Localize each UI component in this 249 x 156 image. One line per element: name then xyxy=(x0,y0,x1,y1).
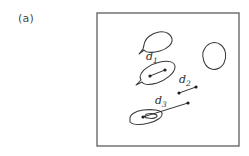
figure-panel: (a) xyxy=(0,0,249,156)
vector-d2-tail-dot xyxy=(177,91,180,94)
vector-d3-label-subscript: 3 xyxy=(162,100,167,109)
vector-d1-label-text: d xyxy=(146,50,153,63)
vector-d2-label-subscript: 2 xyxy=(185,79,191,88)
vector-d3-head-dot xyxy=(186,101,189,104)
figure-scene: d 1 d 2 d 3 xyxy=(0,0,249,156)
vector-d2-label-text: d xyxy=(179,73,186,86)
vector-d3-label-text: d xyxy=(155,94,162,107)
vector-d1-head-dot xyxy=(163,68,166,71)
vector-d1-tail-dot xyxy=(148,74,151,77)
vector-d2-head-dot xyxy=(194,85,197,88)
vector-d1-label-subscript: 1 xyxy=(153,56,158,65)
vector-d3-tail-dot xyxy=(141,115,144,118)
